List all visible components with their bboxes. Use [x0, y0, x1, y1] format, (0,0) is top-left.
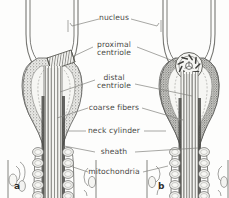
- panel-label-a: a: [14, 181, 20, 191]
- axoneme-b: [179, 72, 202, 198]
- label-nucleus: nucleus: [84, 14, 144, 22]
- label-mitochondria: mitochondria: [78, 168, 150, 176]
- figure-container: nucleus proximal centriole distal centri…: [0, 0, 229, 198]
- panel-label-b: b: [158, 181, 164, 191]
- label-proximal-centriole: proximal centriole: [84, 41, 144, 57]
- label-coarse-fibers: coarse fibers: [79, 104, 149, 112]
- label-sheath: sheath: [89, 148, 139, 156]
- label-neck-cylinder: neck cylinder: [79, 127, 149, 135]
- axoneme-a: [42, 66, 66, 198]
- label-distal-centriole: distal centriole: [84, 74, 144, 90]
